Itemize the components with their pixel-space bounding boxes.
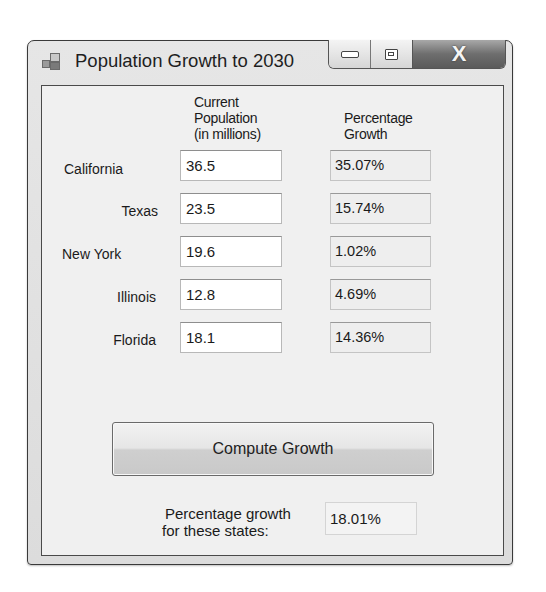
population-input-texas[interactable]: 23.5 (180, 193, 282, 224)
growth-output-california: 35.07% (330, 150, 431, 181)
total-growth-output: 18.01% (325, 502, 417, 535)
caption-buttons: X (328, 40, 506, 69)
state-label-illinois: Illinois (56, 289, 156, 305)
growth-output-florida: 14.36% (330, 322, 431, 353)
population-input-illinois[interactable]: 12.8 (180, 279, 282, 310)
state-label-new-york: New York (62, 246, 121, 262)
app-window: Population Growth to 2030 X Current Popu… (27, 40, 513, 565)
growth-header-line: Percentage (344, 110, 413, 126)
population-header-line: (in millions) (194, 126, 261, 142)
state-label-texas: Texas (58, 203, 158, 219)
close-button[interactable]: X (413, 40, 505, 68)
window-title: Population Growth to 2030 (75, 50, 294, 72)
title-bar[interactable]: Population Growth to 2030 X (28, 41, 512, 85)
compute-growth-button[interactable]: Compute Growth (112, 422, 434, 476)
growth-output-illinois: 4.69% (330, 279, 431, 310)
growth-output-new-york: 1.02% (330, 236, 431, 267)
form-client-area: Current Population (in millions) Percent… (41, 85, 504, 556)
maximize-button[interactable] (371, 40, 413, 68)
population-input-florida[interactable]: 18.1 (180, 322, 282, 353)
minimize-button[interactable] (329, 40, 371, 68)
state-label-california: California (64, 161, 123, 177)
population-input-new-york[interactable]: 19.6 (180, 236, 282, 267)
population-header-line: Population (194, 110, 261, 126)
state-label-florida: Florida (56, 332, 156, 348)
total-label-line: Percentage growth (162, 505, 291, 522)
growth-column-header: Percentage Growth (344, 110, 413, 142)
application-icon[interactable] (42, 53, 60, 70)
total-label-line: for these states: (162, 522, 291, 539)
population-input-california[interactable]: 36.5 (180, 150, 282, 181)
population-column-header: Current Population (in millions) (194, 94, 261, 142)
minimize-icon (341, 51, 359, 58)
growth-header-line: Growth (344, 126, 413, 142)
close-icon: X (452, 43, 467, 65)
population-header-line: Current (194, 94, 261, 110)
growth-output-texas: 15.74% (330, 193, 431, 224)
total-growth-label: Percentage growth for these states: (162, 505, 291, 539)
maximize-icon (385, 49, 398, 60)
